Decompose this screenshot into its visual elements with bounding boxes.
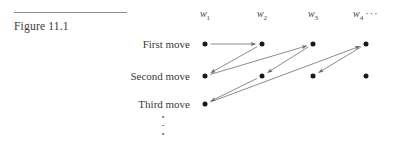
lattice-node-w2-r2: [260, 74, 265, 79]
lattice-node-w4-r1: [364, 42, 369, 47]
row-label-1: First move: [130, 38, 190, 50]
arrow-w2r1-to-w1r2: [211, 47, 258, 73]
column-header-subscript: 3: [315, 14, 319, 22]
column-header-symbol: w: [200, 8, 207, 19]
lattice-node-w1-r3: [203, 102, 208, 107]
arrow-w1r3-to-w4r1: [210, 46, 360, 102]
arrow-w4r1-to-w3r2: [319, 47, 362, 73]
column-header-subscript: 1: [207, 14, 211, 22]
lattice-node-w1-r1: [203, 42, 208, 47]
continuation-dot: [162, 133, 164, 135]
arrow-w3r1-to-w2r2: [268, 47, 309, 73]
arrow-w1r2-to-w3r1: [210, 46, 306, 75]
figure-caption: Figure 11.1: [14, 20, 69, 32]
column-header-subscript: 2: [264, 14, 268, 22]
column-header-w3: w3: [308, 8, 318, 22]
arrow-w2r2-to-w1r3: [211, 78, 257, 101]
caption-rule: [14, 12, 127, 13]
lattice-node-w3-r2: [311, 74, 316, 79]
column-header-symbol: w: [257, 8, 264, 19]
lattice-node-w4-r2: [364, 74, 369, 79]
figure-container: Figure 11.1 w1w2w3w4··· First moveSecond…: [0, 0, 412, 145]
lattice-node-w3-r1: [311, 42, 316, 47]
continuation-dot: [162, 116, 164, 118]
row-label-3: Third move: [130, 98, 190, 110]
lattice-node-w2-r1: [260, 42, 265, 47]
lattice-node-w1-r2: [203, 74, 208, 79]
column-header-w1: w1: [200, 8, 210, 22]
column-header-w2: w2: [257, 8, 267, 22]
row-continuation-dots: [162, 116, 164, 142]
row-label-2: Second move: [130, 70, 190, 82]
continuation-dot: [162, 125, 164, 127]
column-header-ellipsis: ···: [363, 8, 379, 19]
column-header-w4: w4···: [353, 8, 379, 22]
column-header-symbol: w: [353, 8, 360, 19]
column-header-symbol: w: [308, 8, 315, 19]
